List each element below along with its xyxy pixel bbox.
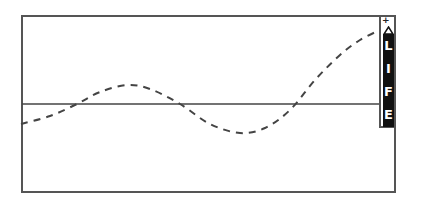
life-letter: L [384,39,392,53]
plus-icon: + [382,15,390,25]
life-letter: E [384,108,393,122]
life-letter: F [384,85,393,99]
dashed-waveform [21,30,380,133]
waveform-plot [0,0,421,208]
life-meter: L I F E [383,34,394,127]
life-letter: I [386,62,391,76]
